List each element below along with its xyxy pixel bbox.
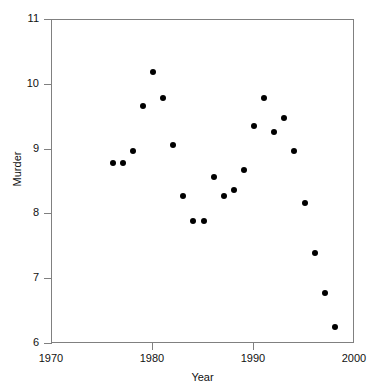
data-point [302,200,308,206]
data-point [150,69,156,75]
data-point [251,123,257,129]
y-axis-tick-label: 10 [9,78,39,89]
data-point [241,167,247,173]
data-point [180,193,186,199]
y-axis-tick-label: 11 [9,13,39,24]
y-axis-tick [44,19,52,20]
y-axis-tick [44,213,52,214]
data-point [322,290,328,296]
y-axis-tick [44,84,52,85]
data-points-layer [52,20,353,342]
data-point [291,148,297,154]
data-point [110,160,116,166]
data-point [261,95,267,101]
y-axis-tick [44,149,52,150]
data-point [271,129,277,135]
data-point [332,324,338,330]
data-point [312,250,318,256]
x-axis-tick-label: 1990 [223,352,283,364]
x-axis-tick-label: 2000 [324,352,379,364]
y-axis-tick-label: 7 [9,272,39,283]
data-point [201,218,207,224]
y-axis-tick-label: 8 [9,207,39,218]
x-axis-tick [152,343,153,350]
data-point [130,148,136,154]
y-axis-tick-label: 9 [9,143,39,154]
data-point [281,115,287,121]
data-point [140,103,146,109]
x-axis-tick-label: 1970 [21,352,81,364]
data-point [160,95,166,101]
x-axis-tick-label: 1980 [122,352,182,364]
plot-area [51,19,354,343]
data-point [211,174,217,180]
data-point [170,142,176,148]
y-axis-tick [44,278,52,279]
y-axis-tick-label: 6 [9,337,39,348]
data-point [120,160,126,166]
data-point [221,193,227,199]
x-axis-label: Year [51,371,354,383]
y-axis-tick [44,343,52,344]
data-point [190,218,196,224]
data-point [231,187,237,193]
scatter-plot-figure: Murder Year 678910111970198019902000 [0,0,379,391]
x-axis-tick [253,343,254,350]
